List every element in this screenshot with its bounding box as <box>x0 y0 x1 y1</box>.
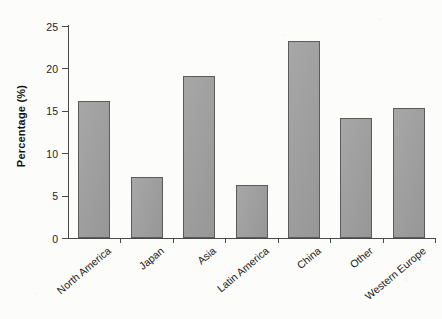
y-axis-tick-label: 0 <box>52 233 58 244</box>
bar <box>78 101 110 238</box>
x-axis-label: Japan <box>137 245 166 271</box>
bar <box>236 185 268 238</box>
x-axis-tick <box>225 238 226 243</box>
y-axis-title-text: Percentage (%) <box>15 85 27 167</box>
bar <box>131 177 163 238</box>
x-axis-tick <box>278 238 279 243</box>
x-axis-label: Asia <box>195 245 217 266</box>
bar <box>340 118 372 238</box>
x-axis-label: North America <box>55 245 113 296</box>
y-axis-tick-label: 10 <box>46 148 58 159</box>
x-axis-label: China <box>295 245 323 271</box>
y-axis-tick: 0 <box>62 238 68 239</box>
bar-chart: Percentage (%) 0510152025 North AmericaJ… <box>0 0 442 319</box>
x-axis-tick <box>383 238 384 243</box>
x-axis-tick <box>330 238 331 243</box>
x-axis-line <box>68 238 435 239</box>
y-axis-tick-label: 15 <box>46 106 58 117</box>
x-axis-tick <box>120 238 121 243</box>
plot-area <box>68 26 435 238</box>
x-axis-label: Other <box>348 245 375 270</box>
bar <box>288 41 320 238</box>
y-axis-tick-label: 25 <box>46 21 58 32</box>
x-axis-tick <box>173 238 174 243</box>
bar <box>393 108 425 238</box>
x-axis-label: Latin America <box>215 245 270 294</box>
x-axis-tick <box>435 238 436 243</box>
y-axis-title: Percentage (%) <box>13 78 29 174</box>
bar <box>183 76 215 238</box>
y-axis-tick-label: 20 <box>46 64 58 75</box>
y-axis-tick-label: 5 <box>52 191 58 202</box>
